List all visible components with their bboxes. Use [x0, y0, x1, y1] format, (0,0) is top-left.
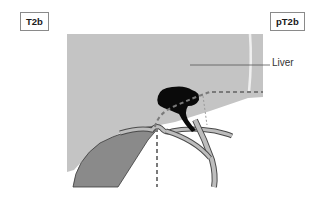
anatomy-diagram [0, 0, 319, 199]
liver-label: Liver [272, 57, 294, 68]
